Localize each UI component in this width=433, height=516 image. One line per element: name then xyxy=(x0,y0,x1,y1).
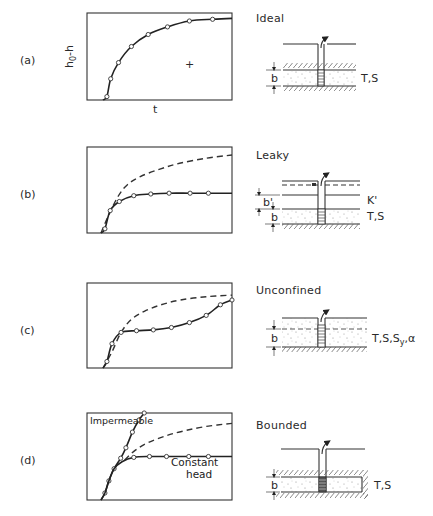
leaky-data-point xyxy=(108,209,112,213)
head-annotation: head xyxy=(186,468,212,480)
ideal-aquifer-diagram: b T,S xyxy=(266,38,378,94)
ideal-data-point xyxy=(129,44,133,48)
panel-label-d: (d) xyxy=(20,454,36,467)
constant-head-data-point xyxy=(132,455,136,459)
unconfined-data-point xyxy=(230,298,234,302)
ideal-data-point xyxy=(211,17,215,21)
panel-c: (c) Unconfined xyxy=(20,283,415,368)
unconfined-data-point xyxy=(218,303,222,307)
title-ideal: Ideal xyxy=(256,12,284,25)
discharge-arrow-icon xyxy=(322,442,328,454)
impermeable-data-point xyxy=(119,456,123,460)
thickness-dimension: b xyxy=(266,62,281,94)
impermeable-data-point xyxy=(124,446,128,450)
constant-head-data-point xyxy=(147,454,151,458)
thickness-dimension: b xyxy=(266,320,281,356)
aquifer-drawdown-figure: (a) h0-h t + Ideal xyxy=(0,0,433,516)
plot-c xyxy=(103,295,234,368)
unconfined-data-point xyxy=(134,329,138,333)
params-label: T,S,Sy,α xyxy=(371,332,415,347)
discharge-arrow-icon xyxy=(321,174,327,186)
bounded-aquifer-diagram: b T,S xyxy=(266,442,391,500)
unconfined-data-point xyxy=(151,328,155,332)
ideal-data-point xyxy=(146,32,150,36)
plot-frame-b xyxy=(87,147,232,233)
well-screen xyxy=(318,325,325,347)
title-unconfined: Unconfined xyxy=(256,284,321,297)
thickness-label: b xyxy=(271,72,278,85)
leaky-data-point xyxy=(117,199,121,203)
panel-label-b: (b) xyxy=(20,188,36,201)
leaky-data-point xyxy=(206,191,210,195)
thickness-label: b xyxy=(271,332,278,345)
leaky-aquifer-diagram: b' b K' T,S xyxy=(255,174,384,232)
constant-head-data-point xyxy=(164,454,168,458)
leaky-data-point xyxy=(188,191,192,195)
aquitard-thickness-label: b' xyxy=(263,196,273,209)
impermeable-data-point xyxy=(130,430,134,434)
piezometer-marker xyxy=(312,183,316,186)
thickness-label: b xyxy=(271,479,278,492)
plus-marker: + xyxy=(185,58,194,71)
impermeable-base xyxy=(282,347,367,352)
confining-layer-top xyxy=(283,63,356,68)
constant-annotation: Constant xyxy=(171,456,218,468)
leaky-data-point xyxy=(103,227,107,231)
y-axis-label: h0-h xyxy=(63,45,78,68)
title-bounded: Bounded xyxy=(256,419,307,432)
unconfined-data-point xyxy=(187,321,191,325)
unconfined-data-point xyxy=(119,330,123,334)
well-screen xyxy=(318,209,325,224)
ideal-data-point xyxy=(116,61,120,65)
impermeable-base xyxy=(282,224,360,229)
panel-label-c: (c) xyxy=(20,324,35,337)
thickness-label: b xyxy=(271,211,278,224)
theis-reference-curve xyxy=(125,423,232,460)
ideal-data-point xyxy=(105,95,109,99)
unconfined-data-point xyxy=(105,359,109,363)
confining-layer-top xyxy=(276,470,364,475)
well-screen xyxy=(318,70,324,86)
ideal-data-point xyxy=(165,25,169,29)
panel-b: (b) Leaky xyxy=(20,147,384,233)
confining-layer-bottom xyxy=(283,86,356,91)
aquifer-sand-left xyxy=(282,318,318,347)
leaky-data-point xyxy=(132,194,136,198)
leaky-data-point xyxy=(167,191,171,195)
leaky-curve xyxy=(101,193,232,233)
panel-a: (a) h0-h t + Ideal xyxy=(20,12,378,116)
panel-label-a: (a) xyxy=(20,54,35,67)
unconfined-data-point xyxy=(204,313,208,317)
leaky-data-point xyxy=(149,192,153,196)
well-screen xyxy=(319,477,326,492)
ideal-data-point xyxy=(109,77,113,81)
params-label: T,S xyxy=(366,210,384,223)
unconfined-aquifer-diagram: b T,S,Sy,α xyxy=(266,311,415,356)
impermeable-annotation: Impermeable xyxy=(90,415,153,426)
params-label: T,S xyxy=(360,72,378,85)
aquitard-param-label: K' xyxy=(367,194,377,207)
ideal-data-point xyxy=(187,19,191,23)
unconfined-data-point xyxy=(169,325,173,329)
params-label: T,S xyxy=(373,479,391,492)
title-leaky: Leaky xyxy=(256,149,290,162)
plot-b xyxy=(101,155,232,233)
panel-d: (d) Impermeable Constant head Bounded xyxy=(20,411,391,500)
plot-a xyxy=(103,17,232,100)
unconfined-data-point xyxy=(110,342,114,346)
ideal-curve xyxy=(103,18,232,100)
x-axis-label: t xyxy=(153,103,158,116)
confining-layer-bottom xyxy=(276,493,368,498)
aquifer-sand-right xyxy=(325,318,367,347)
